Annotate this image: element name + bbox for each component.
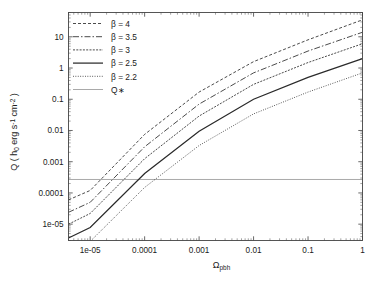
x-tick-label: 0.1	[302, 246, 314, 255]
legend-label-2: β = 3	[111, 45, 130, 55]
x-tick-label: 0.0001	[132, 246, 157, 255]
y-tick-label: 0.0001	[38, 189, 63, 198]
legend-label-3: β = 2.5	[111, 58, 137, 68]
y-axis-label: Q ( h0 erg s-1 cm-2 )	[9, 93, 20, 170]
x-tick-label: 1e-05	[80, 246, 101, 255]
series-curve-4	[69, 73, 363, 251]
legend-label-0: β = 4	[111, 19, 130, 29]
y-tick-label: 0.01	[48, 126, 64, 135]
y-tick-label: 10	[54, 33, 64, 42]
x-axis-label: Ωpbh	[213, 260, 231, 272]
figure-container: 1e-050.00010.0010.010.111e-050.00010.001…	[0, 0, 375, 282]
x-tick-label: 0.01	[246, 246, 262, 255]
x-tick-label: 0.001	[189, 246, 210, 255]
y-tick-label: 0.1	[52, 95, 64, 104]
y-tick-label: 1	[59, 64, 64, 73]
legend-label-4: β = 2.2	[111, 72, 137, 82]
legend-label-1: β = 3.5	[111, 32, 137, 42]
legend-label-5: Q∗	[111, 85, 125, 95]
x-tick-label: 1	[360, 246, 365, 255]
y-tick-label: 1e-05	[43, 220, 64, 229]
y-tick-label: 0.001	[43, 158, 64, 167]
log-log-plot: 1e-050.00010.0010.010.111e-050.00010.001…	[0, 0, 375, 282]
